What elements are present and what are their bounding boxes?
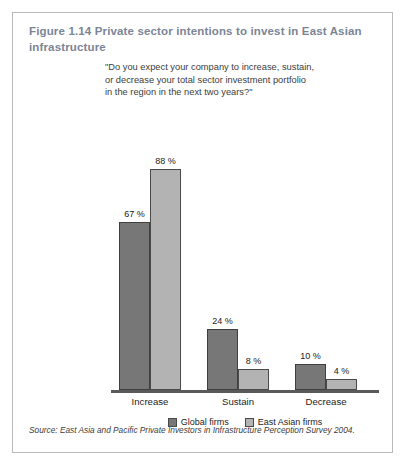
bar-increase-global bbox=[119, 222, 150, 390]
source-note: Source: East Asia and Pacific Private In… bbox=[29, 425, 379, 435]
survey-question-line-2: or decrease your total sector investment… bbox=[105, 74, 365, 87]
survey-question-line-1: "Do you expect your company to increase,… bbox=[105, 61, 365, 74]
page-title: Figure 1.14 Private sector intentions to… bbox=[29, 23, 377, 55]
bar-value-increase-global: 67 % bbox=[114, 209, 155, 219]
category-label-sustain: Sustain bbox=[203, 396, 273, 407]
bar-value-sustain-global: 24 % bbox=[202, 316, 243, 326]
bar-sustain-east bbox=[238, 369, 269, 390]
x-axis-line bbox=[111, 390, 379, 393]
bar-increase-east bbox=[150, 169, 181, 390]
bar-value-increase-east: 88 % bbox=[145, 156, 186, 166]
category-label-increase: Increase bbox=[115, 396, 185, 407]
bar-value-decrease-east: 4 % bbox=[321, 366, 362, 376]
bar-decrease-east bbox=[326, 379, 357, 390]
category-label-decrease: Decrease bbox=[291, 396, 361, 407]
figure-frame: Figure 1.14 Private sector intentions to… bbox=[12, 12, 393, 453]
bar-value-sustain-east: 8 % bbox=[233, 356, 274, 366]
survey-question-text: "Do you expect your company to increase,… bbox=[105, 61, 365, 99]
survey-question-line-3: in the region in the next two years?" bbox=[105, 86, 365, 99]
bar-value-decrease-global: 10 % bbox=[290, 351, 331, 361]
bar-chart-plot-area: 67 % 88 % Increase 24 % 8 % Sustain 10 %… bbox=[111, 131, 379, 393]
